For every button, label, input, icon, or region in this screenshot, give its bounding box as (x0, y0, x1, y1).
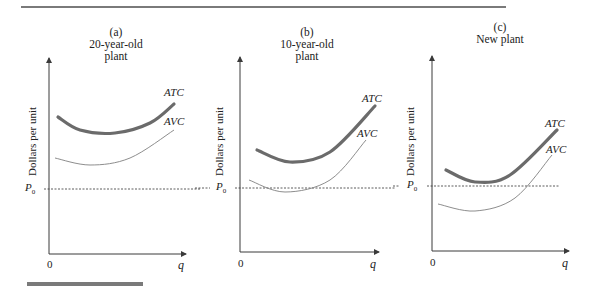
panel-b-title: (b) 10-year-old plant (247, 26, 367, 62)
origin-label: 0 (430, 256, 436, 268)
price-symbol: P (407, 178, 414, 190)
origin-label: 0 (238, 257, 244, 269)
avc-label: AVC (357, 127, 377, 139)
price-label-p0: P0 (25, 181, 35, 196)
atc-curve (446, 130, 557, 182)
y-axis-label: Dollars per unit (26, 107, 38, 176)
atc-label: ATC (545, 117, 565, 129)
price-symbol: P (216, 180, 223, 192)
panel-title-line: 20-year-old (56, 38, 176, 50)
atc-label: ATC (362, 92, 382, 104)
panel-title-line: plant (247, 50, 367, 62)
atc-label: ATC (164, 86, 184, 98)
price-label-p0: P0 (216, 180, 226, 195)
panel-title-line: New plant (440, 33, 560, 45)
panel-b-axes (195, 57, 395, 252)
origin-label: 0 (47, 258, 53, 270)
panel-c-axes (393, 56, 569, 251)
y-axis-label: Dollars per unit (213, 107, 225, 176)
price-subscript: 0 (32, 188, 36, 196)
cost-curves-figure: (a) 20-year-old plant Dollars per unit P… (0, 0, 593, 287)
avc-curve (249, 140, 366, 192)
price-subscript: 0 (223, 187, 227, 195)
price-label-p0: P0 (407, 178, 417, 193)
x-axis-label: q (562, 256, 568, 271)
panel-title-line: 10-year-old (247, 38, 367, 50)
price-symbol: P (25, 181, 32, 193)
x-axis-label: q (370, 257, 376, 272)
atc-curve (58, 104, 174, 133)
panel-letter: (c) (440, 21, 560, 33)
avc-label: AVC (164, 115, 184, 127)
bottom-bar (27, 282, 143, 286)
avc-curve (55, 130, 174, 165)
price-subscript: 0 (414, 185, 418, 193)
panel-letter: (a) (56, 26, 176, 38)
avc-label: AVC (546, 143, 566, 155)
panel-title-line: plant (56, 50, 176, 62)
panel-letter: (b) (247, 26, 367, 38)
x-axis-label: q (178, 258, 184, 273)
panel-c-title: (c) New plant (440, 21, 560, 45)
y-axis-label: Dollars per unit (404, 107, 416, 176)
panel-a-title: (a) 20-year-old plant (56, 26, 176, 62)
